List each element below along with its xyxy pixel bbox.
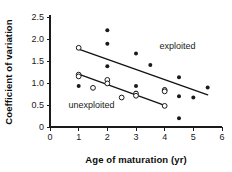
- data-point-unexploited: [76, 45, 81, 50]
- data-point-unexploited: [134, 93, 139, 98]
- data-point-exploited: [134, 84, 138, 88]
- x-tick-label: 3: [133, 132, 138, 142]
- data-point-exploited: [206, 85, 210, 89]
- data-point-exploited: [191, 96, 195, 100]
- x-tick-label: 6: [219, 132, 224, 142]
- trend-lines: [79, 49, 208, 105]
- y-tick-label: 1.5: [31, 56, 44, 66]
- y-tick-label: 2.5: [31, 12, 44, 22]
- data-point-exploited: [105, 42, 109, 46]
- data-point-exploited: [148, 63, 152, 67]
- y-tick-label: 0: [39, 122, 44, 132]
- data-point-exploited: [134, 52, 138, 56]
- series-annotations: exploitedunexploited: [69, 41, 196, 110]
- data-point-exploited: [105, 28, 109, 32]
- y-tick-label: 1.0: [31, 78, 44, 88]
- scatter-plot: 00.51.01.52.02.50123456 exploitedunexplo…: [0, 0, 232, 172]
- x-tick-label: 5: [191, 132, 196, 142]
- data-point-exploited: [177, 94, 181, 98]
- series-label-exploited: exploited: [160, 41, 196, 51]
- data-point-unexploited: [119, 95, 124, 100]
- x-tick-label: 2: [105, 132, 110, 142]
- y-tick-label: 0.5: [31, 100, 44, 110]
- data-point-exploited: [77, 84, 81, 88]
- data-point-unexploited: [162, 89, 167, 94]
- data-point-exploited: [177, 75, 181, 79]
- data-point-unexploited: [162, 103, 167, 108]
- x-axis-title: Age of maturation (yr): [85, 154, 186, 165]
- axes: 00.51.01.52.02.50123456: [31, 12, 224, 142]
- data-point-unexploited: [76, 74, 81, 79]
- data-point-exploited: [105, 64, 109, 68]
- x-tick-label: 0: [47, 132, 52, 142]
- y-tick-label: 2.0: [31, 34, 44, 44]
- data-point-unexploited: [105, 81, 110, 86]
- x-tick-label: 1: [76, 132, 81, 142]
- y-axis-title: Coefficient of variation: [3, 19, 14, 124]
- chart-container: 00.51.01.52.02.50123456 exploitedunexplo…: [0, 0, 232, 172]
- data-point-exploited: [177, 116, 181, 120]
- series-label-unexploited: unexploited: [69, 100, 115, 110]
- trend-line-exploited: [79, 49, 208, 95]
- data-point-unexploited: [91, 85, 96, 90]
- x-tick-label: 4: [162, 132, 167, 142]
